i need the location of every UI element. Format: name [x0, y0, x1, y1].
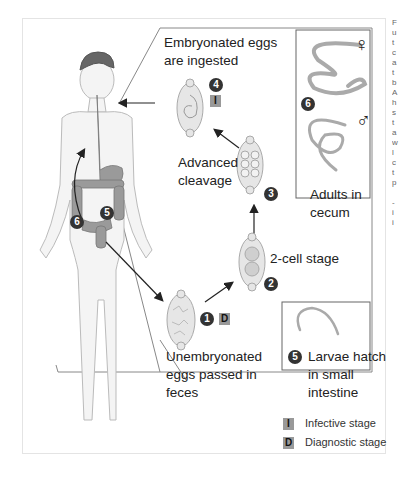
legend-label-diagnostic: Diagnostic stage: [305, 436, 386, 448]
adult-male-worm: [309, 120, 345, 170]
callout-pointer-top: [120, 28, 160, 102]
label-step-6-line1: Adults in: [310, 186, 362, 203]
badge-step-4: 4: [209, 78, 223, 92]
egg-2-cell: [239, 233, 265, 291]
label-step-5-line1: Larvae hatch: [308, 348, 386, 365]
label-step-4-line2: are ingested: [164, 52, 238, 69]
badge-host-6: 6: [70, 215, 84, 229]
label-step-4-line1: Embryonated eggs: [164, 34, 277, 51]
legend-tag-diagnostic: D: [283, 437, 294, 449]
badge-step-3: 3: [264, 187, 278, 201]
badge-host-5: 5: [100, 206, 114, 220]
label-step-6-line2: cecum: [310, 204, 350, 221]
arrow-3-4: [215, 130, 239, 148]
label-step-5-line2: in small: [308, 366, 354, 383]
label-step-3-line2: cleavage: [178, 172, 232, 189]
label-step-3-line1: Advanced: [178, 154, 238, 171]
label-step-5-line3: intestine: [308, 384, 358, 401]
badge-step-1: 1: [200, 312, 214, 326]
badge-step-2: 2: [264, 277, 278, 291]
legend-tag-infective: I: [283, 418, 294, 430]
egg-unembryonated: [167, 290, 195, 350]
lifecycle-illustration: [0, 0, 415, 481]
stage-tag-infective: I: [210, 95, 221, 107]
egg-advanced-cleavage: [237, 136, 263, 194]
label-step-1-line3: feces: [166, 384, 198, 401]
male-symbol-icon: ♂: [356, 112, 371, 129]
stage-tag-diagnostic: D: [219, 313, 230, 325]
arrow-1-2: [205, 283, 232, 302]
larva-worm: [298, 308, 338, 334]
label-step-2: 2-cell stage: [270, 250, 339, 267]
female-symbol-icon: ♀: [354, 36, 369, 53]
egg-embryonated: [177, 79, 203, 137]
label-step-1-line2: eggs passed in: [166, 366, 257, 383]
label-step-1-line1: Unembryonated: [166, 348, 262, 365]
badge-step-6: 6: [301, 97, 315, 111]
badge-step-5: 5: [288, 350, 302, 364]
legend-label-infective: Infective stage: [305, 417, 376, 429]
